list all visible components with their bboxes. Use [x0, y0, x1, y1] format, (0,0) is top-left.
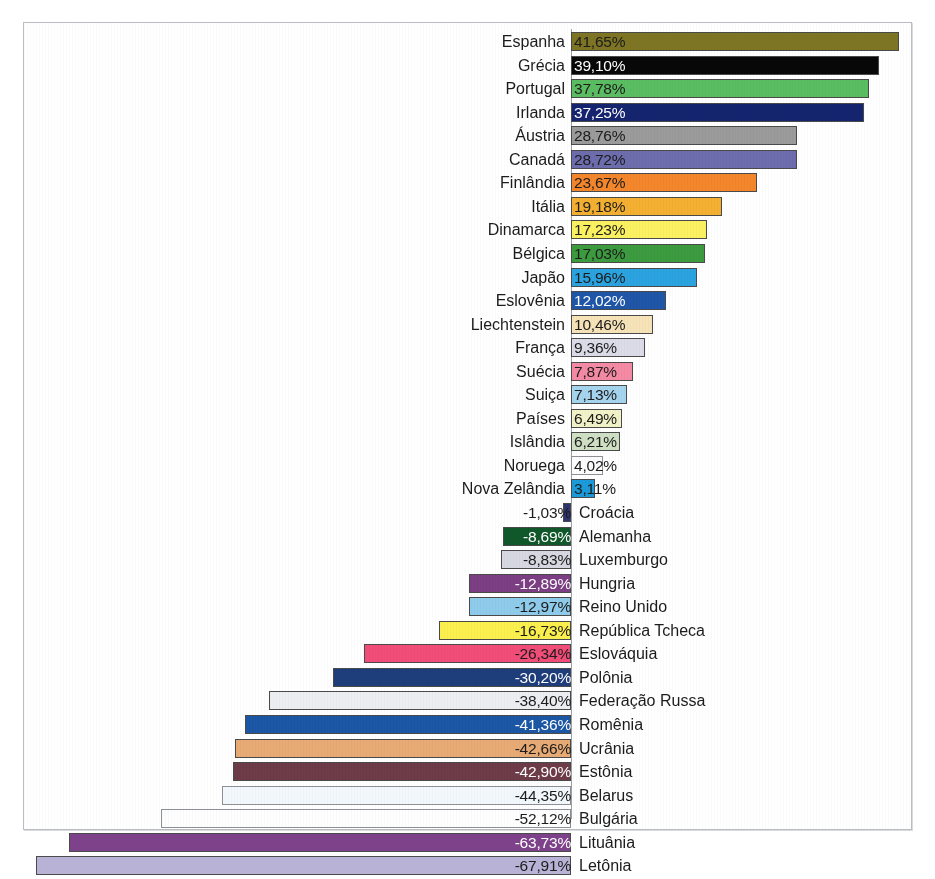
category-label-frança: França — [241, 337, 565, 358]
category-label-ucrânia: Ucrânia — [579, 738, 909, 759]
bar-row: 41,65%Espanha — [24, 31, 913, 55]
bar-row: 7,13%Suiça — [24, 384, 913, 408]
category-label-grécia: Grécia — [241, 55, 565, 76]
category-label-noruega: Noruega — [241, 455, 565, 476]
category-label-estônia: Estônia — [579, 761, 909, 782]
bar-value-label: -44,35% — [481, 785, 575, 806]
bar-row: 9,36%França — [24, 337, 913, 361]
bar-value-label: 6,21% — [571, 431, 654, 452]
category-label-romênia: Romênia — [579, 714, 909, 735]
bar-value-label: -52,12% — [481, 808, 575, 829]
bar-value-label: 37,78% — [571, 78, 654, 99]
bar-value-label: -26,34% — [481, 643, 575, 664]
bar-row: 17,03%Bélgica — [24, 243, 913, 267]
category-label-eslovênia: Eslovênia — [241, 290, 565, 311]
bar-value-label: -42,66% — [481, 738, 575, 759]
bar-value-label: 3,11% — [571, 478, 654, 499]
bar-row: -8,83%Luxemburgo — [24, 549, 913, 573]
bar-value-label: 23,67% — [571, 172, 654, 193]
bar-row: 37,25%Irlanda — [24, 102, 913, 126]
bar-row: -16,73%República Tcheca — [24, 620, 913, 644]
category-label-suiça: Suiça — [241, 384, 565, 405]
bar-row: -52,12%Bulgária — [24, 808, 913, 832]
category-label-polônia: Polônia — [579, 667, 909, 688]
category-label-islândia: Islândia — [241, 431, 565, 452]
category-label-itália: Itália — [241, 196, 565, 217]
category-label-dinamarca: Dinamarca — [241, 219, 565, 240]
chart-frame: 41,65%Espanha39,10%Grécia37,78%Portugal3… — [23, 22, 912, 830]
category-label-irlanda: Irlanda — [241, 102, 565, 123]
category-label-federação-russa: Federação Russa — [579, 690, 909, 711]
bar-value-label: 41,65% — [571, 31, 654, 52]
category-label-bulgária: Bulgária — [579, 808, 909, 829]
category-label-hungria: Hungria — [579, 573, 909, 594]
bar-value-label: 12,02% — [571, 290, 654, 311]
bar-row: 6,21%Islândia — [24, 431, 913, 455]
bar-row: 6,49%Países — [24, 408, 913, 432]
bar-row: 39,10%Grécia — [24, 55, 913, 79]
bar-row: -63,73%Lituânia — [24, 832, 913, 856]
bar-value-label: 10,46% — [571, 314, 654, 335]
bar-value-label: -30,20% — [481, 667, 575, 688]
bar-value-label: -63,73% — [481, 832, 575, 853]
bar-value-label: 17,03% — [571, 243, 654, 264]
category-label-japão: Japão — [241, 267, 565, 288]
category-label-alemanha: Alemanha — [579, 526, 909, 547]
category-label-finlândia: Finlândia — [241, 172, 565, 193]
category-label-países: Países — [241, 408, 565, 429]
category-label-nova-zelândia: Nova Zelândia — [241, 478, 565, 499]
bar-value-label: 28,76% — [571, 125, 654, 146]
bar-row: -30,20%Polônia — [24, 667, 913, 691]
bar-value-label: 6,49% — [571, 408, 654, 429]
bar-value-label: 15,96% — [571, 267, 654, 288]
bar-row: -26,34%Eslováquia — [24, 643, 913, 667]
bar-row: -42,66%Ucrânia — [24, 738, 913, 762]
bar-row: 10,46%Liechtenstein — [24, 314, 913, 338]
bar-row: -42,90%Estônia — [24, 761, 913, 785]
bar-value-label: -8,69% — [481, 526, 575, 547]
category-label-lituânia: Lituânia — [579, 832, 909, 853]
bar-value-label: -16,73% — [481, 620, 575, 641]
category-label-croácia: Croácia — [579, 502, 909, 523]
bar-row: -8,69%Alemanha — [24, 526, 913, 550]
bar-row: 23,67%Finlândia — [24, 172, 913, 196]
bar-value-label: 7,87% — [571, 361, 654, 382]
bar-value-label: 19,18% — [571, 196, 654, 217]
bar-row: -12,97%Reino Unido — [24, 596, 913, 620]
bar-value-label: -1,03% — [481, 502, 575, 523]
bar-row: 37,78%Portugal — [24, 78, 913, 102]
bar-row: -12,89%Hungria — [24, 573, 913, 597]
bar-value-label: 9,36% — [571, 337, 654, 358]
category-label-liechtenstein: Liechtenstein — [241, 314, 565, 335]
bar-value-label: 39,10% — [571, 55, 654, 76]
bar-value-label: -12,89% — [481, 573, 575, 594]
bar-row: -41,36%Romênia — [24, 714, 913, 738]
category-label-luxemburgo: Luxemburgo — [579, 549, 909, 570]
bar-row: 17,23%Dinamarca — [24, 219, 913, 243]
category-label-belarus: Belarus — [579, 785, 909, 806]
bar-value-label: 4,02% — [571, 455, 654, 476]
category-label-letônia: Letônia — [579, 855, 909, 876]
category-label-bélgica: Bélgica — [241, 243, 565, 264]
bar-row: 12,02%Eslovênia — [24, 290, 913, 314]
category-label-suécia: Suécia — [241, 361, 565, 382]
bar-row: 7,87%Suécia — [24, 361, 913, 385]
bar-row: 28,72%Canadá — [24, 149, 913, 173]
category-label-áustria: Áustria — [241, 125, 565, 146]
bar-row: -67,91%Letônia — [24, 855, 913, 879]
bar-row: -1,03%Croácia — [24, 502, 913, 526]
bar-row: 15,96%Japão — [24, 267, 913, 291]
category-label-eslováquia: Eslováquia — [579, 643, 909, 664]
bar-value-label: 7,13% — [571, 384, 654, 405]
bar-row: -44,35%Belarus — [24, 785, 913, 809]
category-label-espanha: Espanha — [241, 31, 565, 52]
bar-value-label: -38,40% — [481, 690, 575, 711]
bar-row: 28,76%Áustria — [24, 125, 913, 149]
category-label-república-tcheca: República Tcheca — [579, 620, 909, 641]
bar-value-label: 37,25% — [571, 102, 654, 123]
bar-row: 4,02%Noruega — [24, 455, 913, 479]
bar-value-label: -67,91% — [481, 855, 575, 876]
bar-row: -38,40%Federação Russa — [24, 690, 913, 714]
bar-chart-plot-area: 41,65%Espanha39,10%Grécia37,78%Portugal3… — [24, 23, 913, 831]
bar-value-label: -12,97% — [481, 596, 575, 617]
